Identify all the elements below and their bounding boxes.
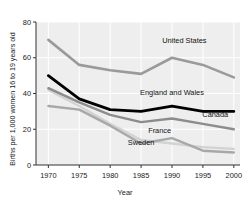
series-label-sweden: Sweden — [128, 138, 155, 147]
x-axis-ticks: 1970197519801985199019952000 — [40, 165, 242, 180]
series-label-united-states: United States — [162, 36, 207, 45]
y-axis-ticks: 020406080 — [23, 18, 36, 170]
x-tick-label: 1995 — [195, 171, 211, 180]
series-label-england-and-wales: England and Wales — [140, 88, 204, 97]
plot-area: 020406080 1970197519801985199019952000 U… — [0, 0, 250, 202]
x-tick-label: 1985 — [133, 171, 149, 180]
x-tick-label: 1970 — [40, 171, 56, 180]
y-tick-label: 80 — [23, 18, 31, 27]
x-tick-label: 1980 — [102, 171, 118, 180]
y-tick-label: 60 — [23, 53, 31, 62]
x-tick-label: 2000 — [226, 171, 242, 180]
series-label-france: France — [148, 126, 171, 135]
y-tick-label: 40 — [23, 89, 31, 98]
x-tick-label: 1990 — [164, 171, 180, 180]
y-tick-label: 0 — [27, 161, 31, 170]
series-label-canada: Canada — [202, 110, 229, 119]
x-tick-label: 1975 — [71, 171, 87, 180]
teen-birth-rate-line-chart: Births per 1,000 women 16 to 19 years ol… — [0, 0, 250, 202]
y-tick-label: 20 — [23, 125, 31, 134]
